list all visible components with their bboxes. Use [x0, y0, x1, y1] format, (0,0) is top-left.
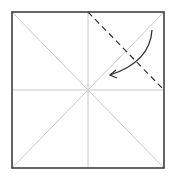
crease-lines — [12, 12, 164, 168]
origami-diagram — [0, 0, 172, 181]
